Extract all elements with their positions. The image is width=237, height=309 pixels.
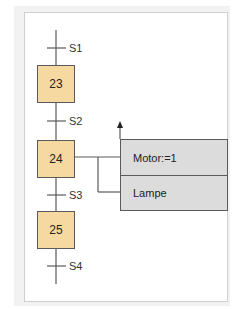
- transition-label-s1: S1: [69, 42, 82, 54]
- step-25: 25: [37, 211, 75, 249]
- action-lampe: Lampe: [120, 175, 228, 211]
- transition-label-s4: S4: [69, 260, 82, 272]
- step-23: 23: [37, 65, 75, 103]
- transition-label-s3: S3: [69, 189, 82, 201]
- action-motor: Motor:=1: [120, 139, 228, 176]
- transition-label-s2: S2: [69, 115, 82, 127]
- step-24: 24: [37, 140, 75, 178]
